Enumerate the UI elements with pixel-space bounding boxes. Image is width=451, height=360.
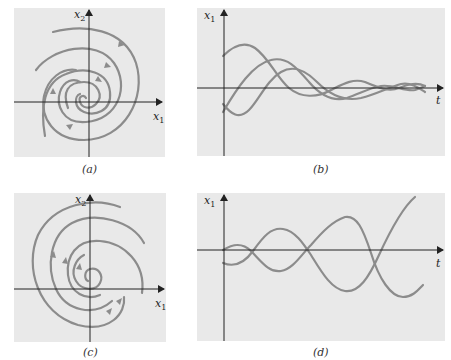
caption-a: (a)	[82, 163, 97, 176]
growing-oscillation-plot: x1 t	[197, 193, 445, 341]
unstable-spiral-plot: x2 x1	[14, 193, 166, 342]
x-axis-label: x1	[155, 297, 166, 312]
stable-spiral-plot: x2 x1	[14, 8, 165, 157]
panel-a-stable-spiral: x2 x1	[14, 8, 165, 157]
caption-c: (c)	[83, 346, 98, 359]
t-axis-label: t	[436, 94, 441, 107]
y-axis-label: x2	[75, 193, 86, 208]
panel-d-growing-oscillations: x1 t	[197, 193, 445, 341]
y-axis-label: x1	[204, 9, 215, 24]
panel-b-damped-oscillations: x1 t	[197, 8, 445, 156]
x-axis-label: x1	[153, 110, 164, 125]
y-axis-label: x2	[74, 8, 85, 23]
caption-d: (d)	[313, 346, 329, 359]
damped-oscillation-plot: x1 t	[197, 8, 445, 156]
t-axis-label: t	[436, 257, 441, 270]
caption-b: (b)	[313, 163, 329, 176]
y-axis-label: x1	[204, 194, 215, 209]
panel-c-unstable-spiral: x2 x1	[14, 193, 166, 342]
